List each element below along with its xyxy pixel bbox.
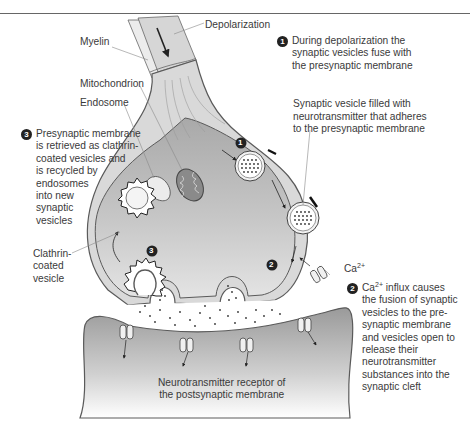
step-3-caption: 3 Presynaptic membrane is retrieved as c… (36, 128, 141, 227)
step-2-charge: 2+ (375, 281, 383, 288)
label-clathrin-vesicle: Clathrin- coated vesicle (33, 248, 72, 285)
label-depolarization: Depolarization (205, 19, 270, 31)
step-2-badge-icon: 2 (347, 283, 358, 294)
step-1-caption: 1 During depolarization the synaptic ves… (292, 35, 413, 72)
marker-1-label: 1 (238, 137, 242, 149)
marker-3-label: 3 (149, 245, 153, 257)
ca-text: Ca (344, 263, 357, 274)
step-2-line: synaptic membrane (362, 319, 458, 331)
label-endosome: Endosome (80, 97, 129, 109)
receptor-line-2: the postsynaptic membrane (158, 389, 285, 401)
label-receptor: Neurotransmitter receptor of the postsyn… (158, 377, 285, 402)
step-3-badge-icon: 3 (21, 129, 32, 140)
marker-2-label: 2 (269, 259, 273, 271)
label-myelin: Myelin (80, 36, 109, 48)
step-3-line: into new (36, 190, 141, 202)
step-1-line: During depolarization the (292, 35, 413, 47)
step-2-text: influx causes (383, 282, 445, 293)
clathrin-line-3: vesicle (33, 273, 72, 285)
step-2-line: synaptic cleft (362, 381, 458, 393)
synaptic-vesicle-2 (287, 202, 319, 234)
step-1-badge-icon: 1 (277, 36, 288, 47)
step-3-line: vesicles (36, 215, 141, 227)
step-1-line: the presynaptic membrane (292, 60, 413, 72)
vesicle-line-2: neurotransmitter that adheres (293, 111, 427, 124)
step-2-caption: 2 Ca2+ influx causes the fusion of synap… (362, 282, 458, 394)
receptor-line-1: Neurotransmitter receptor of (158, 377, 285, 389)
synaptic-vesicle-1 (235, 151, 265, 181)
step-2-line: neurotransmitter (362, 356, 458, 368)
step-3-line: coated vesicles and (36, 153, 141, 165)
step-2-line: vesicles to the pre- (362, 307, 458, 319)
clathrin-line-2: coated (33, 260, 72, 272)
vesicle-line-1: Synaptic vesicle filled with (293, 98, 427, 111)
step-3-line: endosomes (36, 178, 141, 190)
ca-channel (309, 265, 328, 283)
step-3-line: is recycled by (36, 165, 141, 177)
step-3-line: is retrieved as clathrin- (36, 140, 141, 152)
label-synaptic-vesicle: Synaptic vesicle filled with neurotransm… (293, 98, 427, 136)
label-mitochondrion: Mitochondrion (80, 78, 144, 90)
step-2-ca: Ca (362, 282, 375, 293)
clathrin-line-1: Clathrin- (33, 248, 72, 260)
step-3-line: synaptic (36, 202, 141, 214)
step-2-line: and vesicles open to (362, 332, 458, 344)
step-2-line: the fusion of synaptic (362, 294, 458, 306)
step-2-line: substances into the (362, 369, 458, 381)
vesicle-line-3: to the presynaptic membrane (293, 123, 427, 136)
step-1-line: synaptic vesicles fuse with (292, 47, 413, 59)
step-2-line: Ca2+ influx causes (362, 282, 458, 294)
step-2-line: release their (362, 344, 458, 356)
ca-charge: 2+ (357, 262, 365, 269)
label-ca-ion: Ca2+ (344, 263, 365, 275)
step-3-line: Presynaptic membrane (36, 128, 141, 140)
